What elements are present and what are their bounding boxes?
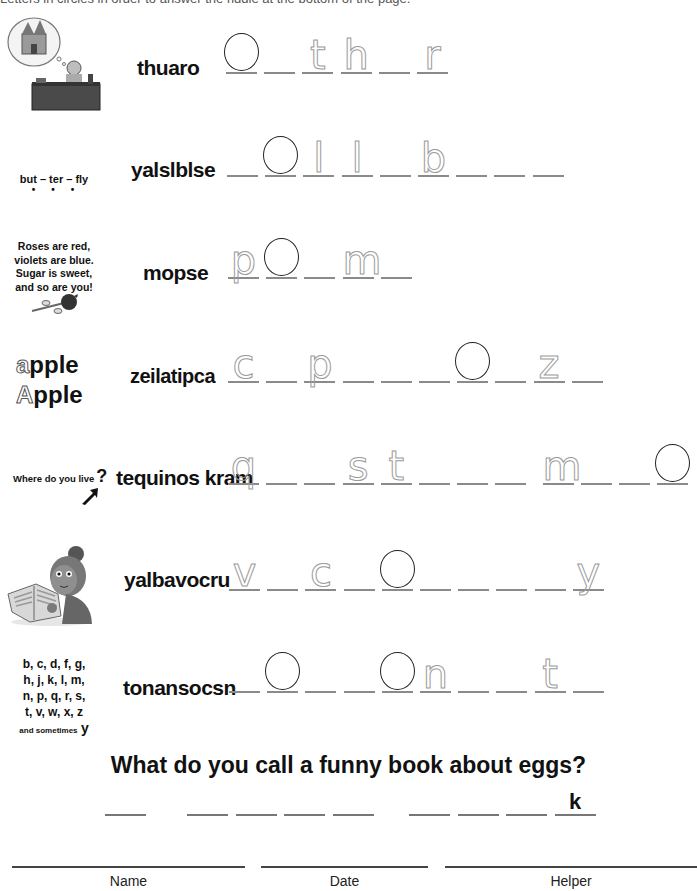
riddle-letter-blank[interactable] <box>284 814 325 816</box>
letter-blank[interactable] <box>265 175 296 177</box>
letter-blank[interactable] <box>457 381 488 383</box>
scrambled-word: mopse <box>143 261 208 285</box>
poem-hint: Roses are red, violets are blue. Sugar i… <box>4 240 104 294</box>
letter-blank[interactable] <box>657 483 688 485</box>
circled-letter-slot[interactable] <box>265 652 300 690</box>
letter-blank[interactable] <box>494 175 525 177</box>
name-line[interactable] <box>12 866 245 868</box>
traced-letter-hint: n <box>420 654 451 694</box>
letter-blank[interactable] <box>458 589 489 591</box>
riddle-letter-blank[interactable] <box>333 814 374 816</box>
traced-letter-hint: p <box>228 240 259 280</box>
consonant-line: t, v, w, x, z <box>4 704 104 720</box>
letter-blank[interactable] <box>420 589 451 591</box>
apple-lowercase: aapplepple <box>16 350 136 380</box>
consonant-line: and sometimes y <box>4 720 104 739</box>
riddle-letter-blank[interactable] <box>236 814 277 816</box>
name-label: Name <box>12 873 245 889</box>
capitalize-hint: aapplepple Apple <box>0 350 136 410</box>
letter-blank[interactable] <box>305 691 336 693</box>
riddle-letter-blank[interactable] <box>409 814 450 816</box>
letter-blank[interactable] <box>344 691 375 693</box>
helper-label: Helper <box>445 873 697 889</box>
syllable-hint: but – ter – fly ••• <box>4 172 104 194</box>
letter-blank[interactable] <box>495 381 526 383</box>
letter-blank[interactable] <box>343 381 374 383</box>
letter-blank[interactable] <box>382 691 413 693</box>
poem-line: Sugar is sweet, <box>4 267 104 281</box>
letter-blank[interactable] <box>533 175 564 177</box>
circled-letter-slot[interactable] <box>224 33 259 71</box>
letter-blank[interactable] <box>229 691 260 693</box>
circled-letter-slot[interactable] <box>380 652 415 690</box>
scrambled-word: yalslblse <box>131 158 215 182</box>
letter-blank[interactable] <box>456 175 487 177</box>
letter-blank[interactable] <box>304 483 335 485</box>
riddle-letter-blank[interactable] <box>458 814 499 816</box>
traced-letter-hint: h <box>341 35 372 75</box>
scrambled-word: tonansocsn <box>123 676 236 700</box>
letter-blank[interactable] <box>457 483 488 485</box>
where-do-you-live-hint: Where do you live? <box>13 466 107 487</box>
traced-letter-hint: b <box>418 138 449 178</box>
traced-letter-hint: r <box>417 35 448 75</box>
letter-blank[interactable] <box>496 691 527 693</box>
syllable-dots: ••• <box>4 186 104 194</box>
traced-letter-hint: y <box>573 552 604 592</box>
letter-blank[interactable] <box>419 483 450 485</box>
circled-letter-slot[interactable] <box>264 238 299 276</box>
letter-blank[interactable] <box>573 691 604 693</box>
letter-blank[interactable] <box>264 72 295 74</box>
traced-letter-hint: v <box>229 552 260 592</box>
circled-letter-slot[interactable] <box>380 550 415 588</box>
letter-blank[interactable] <box>535 589 566 591</box>
letter-blank[interactable] <box>266 277 297 279</box>
letter-blank[interactable] <box>496 589 527 591</box>
riddle-question: What do you call a funny book about eggs… <box>0 752 697 779</box>
traced-letter-hint: t <box>302 35 333 75</box>
scrambled-word: yalbavocru <box>124 568 230 592</box>
letter-blank[interactable] <box>581 483 612 485</box>
letter-blank[interactable] <box>458 691 489 693</box>
letter-blank[interactable] <box>382 589 413 591</box>
helper-line[interactable] <box>445 866 697 868</box>
riddle-letter-blank[interactable] <box>187 814 228 816</box>
letter-blank[interactable] <box>619 483 650 485</box>
traced-letter-hint: m <box>343 240 374 280</box>
circled-letter-slot[interactable] <box>455 342 490 380</box>
letter-blank[interactable] <box>266 381 297 383</box>
traced-letter-hint: c <box>305 552 336 592</box>
letter-blank[interactable] <box>304 277 335 279</box>
letter-blank[interactable] <box>226 72 257 74</box>
traced-letter-hint: m <box>543 446 574 486</box>
letter-blank[interactable] <box>380 175 411 177</box>
traced-letter-hint: t <box>535 654 566 694</box>
letter-blank[interactable] <box>572 381 603 383</box>
letter-blank[interactable] <box>344 589 375 591</box>
apple-uppercase: Apple <box>16 380 136 410</box>
letter-blank[interactable] <box>267 691 298 693</box>
letter-blank[interactable] <box>381 277 412 279</box>
date-label: Date <box>261 873 428 889</box>
letter-blank[interactable] <box>381 381 412 383</box>
riddle-letter-blank[interactable] <box>105 814 146 816</box>
arrow-pointer-icon <box>80 486 100 506</box>
traced-letter-hint: p <box>304 344 335 384</box>
letter-blank[interactable] <box>227 175 258 177</box>
traced-letter-hint: z <box>534 344 565 384</box>
letter-blank[interactable] <box>419 381 450 383</box>
date-line[interactable] <box>261 866 428 868</box>
consonant-line: h, j, k, l, m, <box>4 672 104 688</box>
letter-blank[interactable] <box>266 483 297 485</box>
letter-blank[interactable] <box>379 72 410 74</box>
traced-letter-hint: c <box>228 344 259 384</box>
scrambled-word: thuaro <box>137 56 199 80</box>
circled-letter-slot[interactable] <box>655 444 690 482</box>
consonant-line: b, c, d, f, g, <box>4 656 104 672</box>
letter-blank[interactable] <box>267 589 298 591</box>
letter-blank[interactable] <box>495 483 526 485</box>
circled-letter-slot[interactable] <box>263 136 298 174</box>
question-mark-glyph: ? <box>96 466 107 486</box>
riddle-letter-blank[interactable] <box>506 814 547 816</box>
traced-letter-hint: t <box>381 446 412 486</box>
